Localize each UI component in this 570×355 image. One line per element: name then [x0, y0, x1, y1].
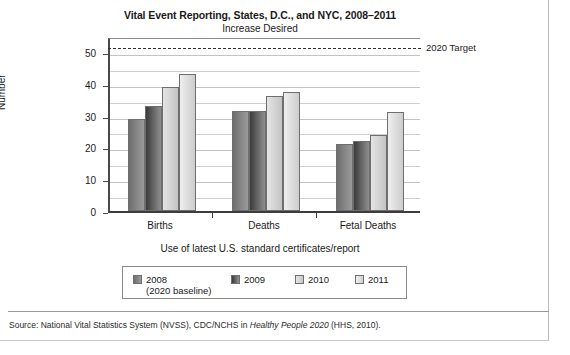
- y-axis-tick-label: 10: [70, 175, 96, 186]
- legend-swatch-icon: [355, 275, 364, 284]
- bar-deaths-2010: [266, 96, 283, 211]
- x-axis-title: Use of latest U.S. standard certificates…: [0, 243, 520, 254]
- bar-births-2010: [162, 87, 179, 211]
- y-axis-tick: [103, 118, 108, 119]
- target-line-label: 2020 Target: [426, 42, 476, 53]
- y-axis-tick-label: 0: [70, 207, 96, 218]
- source-prefix: Source: National Vital Statistics System…: [9, 320, 250, 330]
- gridline-minor: [110, 103, 420, 104]
- y-axis-tick: [103, 213, 108, 214]
- bar-births-2009: [145, 106, 162, 211]
- legend-swatch-icon: [231, 275, 240, 284]
- legend-item-2009[interactable]: 2009: [231, 274, 265, 285]
- legend-swatch-icon: [133, 275, 142, 284]
- legend-item-2010[interactable]: 2010: [295, 274, 329, 285]
- y-axis-tick-label: 40: [70, 80, 96, 91]
- source-publication: Healthy People 2020: [250, 320, 329, 330]
- y-axis-tick: [103, 86, 108, 87]
- legend-label: 2008(2020 baseline): [146, 274, 212, 296]
- x-axis-category-births: Births: [110, 220, 210, 231]
- x-axis-category-fetal-deaths: Fetal Deaths: [318, 220, 418, 231]
- legend-item-2011[interactable]: 2011: [355, 274, 388, 285]
- bar-births-2011: [179, 74, 196, 211]
- legend-label: 2009: [244, 274, 265, 285]
- legend-label: 2011: [368, 274, 388, 285]
- chart-title: Vital Event Reporting, States, D.C., and…: [0, 9, 520, 21]
- y-axis-tick: [103, 149, 108, 150]
- bar-fetal-deaths-2009: [353, 141, 370, 211]
- bar-deaths-2009: [249, 111, 266, 211]
- x-axis-tick: [212, 213, 213, 218]
- y-axis-tick: [103, 181, 108, 182]
- source-divider: [8, 311, 549, 312]
- source-note: Source: National Vital Statistics System…: [9, 320, 381, 330]
- bar-deaths-2008: [232, 111, 249, 211]
- gridline-minor: [110, 71, 420, 72]
- bar-births-2008: [128, 119, 145, 211]
- y-axis-tick-label: 50: [70, 48, 96, 59]
- y-axis-title: Number: [0, 74, 7, 110]
- target-line: [108, 48, 421, 49]
- legend-item-2008[interactable]: 2008(2020 baseline): [133, 274, 212, 296]
- gridline-major: [110, 87, 420, 88]
- legend-label: 2010: [308, 274, 329, 285]
- bar-fetal-deaths-2011: [387, 112, 404, 211]
- source-suffix: (HHS, 2010).: [329, 320, 381, 330]
- y-axis-tick: [103, 54, 108, 55]
- bar-deaths-2011: [283, 92, 300, 211]
- y-axis-tick-label: 30: [70, 112, 96, 123]
- legend-sublabel: (2020 baseline): [146, 285, 212, 296]
- legend-swatch-icon: [295, 275, 304, 284]
- y-axis-tick-label: 20: [70, 143, 96, 154]
- chart-legend: 2008(2020 baseline)200920102011: [122, 266, 407, 299]
- figure-card: Vital Event Reporting, States, D.C., and…: [0, 0, 549, 341]
- chart-subtitle: Increase Desired: [0, 23, 520, 34]
- plot-area: [108, 38, 420, 213]
- x-axis-tick: [316, 213, 317, 218]
- bar-fetal-deaths-2008: [336, 144, 353, 211]
- x-axis-category-deaths: Deaths: [214, 220, 314, 231]
- bar-fetal-deaths-2010: [370, 135, 387, 211]
- gridline-major: [110, 55, 420, 56]
